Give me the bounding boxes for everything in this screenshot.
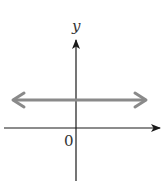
coordinate-plane: y 0 xyxy=(0,0,164,181)
origin-label: 0 xyxy=(64,132,74,150)
y-axis-label: y xyxy=(71,17,81,35)
horizontal-line xyxy=(13,93,146,107)
